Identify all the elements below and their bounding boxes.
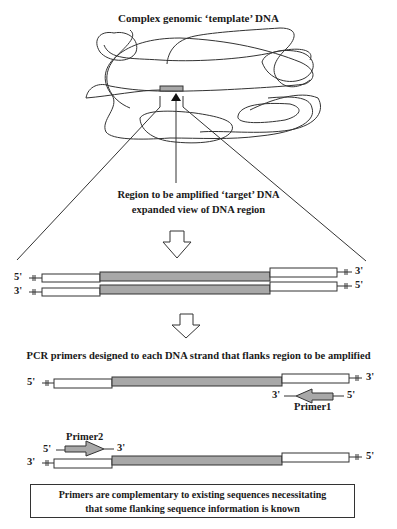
pcr-diagram: Complex genomic ‘template’ DNA Region to… [0, 0, 397, 529]
genomic-dna-tangle [86, 28, 321, 143]
strand-bottom-right-end: 5' [355, 279, 363, 290]
expansion-line-left [17, 107, 160, 260]
primer2-strand-right-end: 5' [366, 450, 374, 461]
expanded-view-label: expanded view of DNA region [0, 204, 397, 215]
down-arrow-icon [172, 314, 200, 338]
primer1-strand-right-end: 3' [366, 371, 374, 382]
strand-top-left-end: 5' [14, 271, 22, 282]
pcr-primers-label: PCR primers designed to each DNA strand … [0, 350, 397, 361]
strand-top-right-end: 3' [355, 265, 363, 276]
strand-bottom-left-end: 3' [14, 285, 22, 296]
strand-with-primer2 [42, 441, 362, 468]
primer1-label: Primer1 [294, 401, 331, 412]
strand-with-primer1 [42, 374, 362, 403]
note-box: Primers are complementary to existing se… [30, 484, 355, 518]
diagram-title: Complex genomic ‘template’ DNA [0, 12, 397, 24]
note-line-1: Primers are complementary to existing se… [31, 488, 354, 502]
down-arrow-icon [163, 231, 191, 258]
primer2-5prime: 5' [43, 443, 51, 454]
primer2-arrow [56, 441, 114, 456]
primer1-3prime: 3' [272, 389, 280, 400]
primer2-3prime: 3' [117, 442, 125, 453]
primer2-label: Primer2 [66, 431, 103, 442]
target-region-marker [160, 86, 183, 91]
primer1-strand-left-end: 5' [27, 376, 35, 387]
double-strand-dna [29, 268, 352, 296]
note-line-2: that some flanking sequence information … [31, 502, 354, 516]
primer1-5prime: 5' [347, 389, 355, 400]
diagram-canvas [0, 0, 397, 529]
primer2-strand-left-end: 3' [27, 456, 35, 467]
target-region-label: Region to be amplified ‘target’ DNA [0, 189, 397, 200]
expansion-line-right [183, 107, 366, 261]
